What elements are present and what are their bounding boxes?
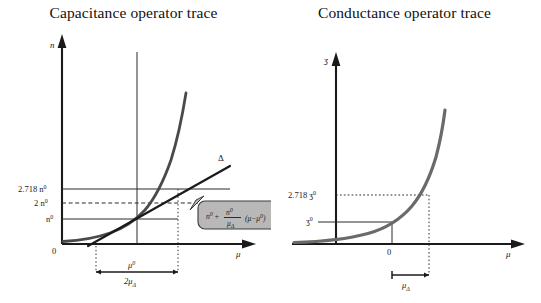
x-axis-label-conductance: μ — [505, 249, 511, 259]
span-label-mu0: μ0 — [127, 260, 135, 270]
ytick-label-2718z0: 2.718 ʒ0 — [288, 190, 316, 200]
ytick-label-2n0: 2 n0 — [34, 198, 48, 208]
svg-text:ʒ0: ʒ0 — [306, 216, 313, 226]
tangent-label-delta: Δ — [218, 153, 224, 163]
x-axis-label-capacitance: μ — [235, 249, 241, 259]
capacitance-plot: n μ Δ 2.718 — [0, 0, 271, 303]
svg-text:2 n0: 2 n0 — [34, 198, 48, 208]
y-axis-label-conductance: ʒ — [323, 55, 329, 65]
y-axis-label-capacitance: n — [50, 40, 55, 50]
svg-text:n0: n0 — [46, 214, 53, 224]
exponential-curve-conductance — [294, 110, 445, 243]
svg-text:2.718 n0: 2.718 n0 — [18, 184, 47, 194]
span-label-mudelta-conductance: μΔ — [401, 280, 410, 292]
ytick-label-2718n0: 2.718 n0 — [18, 184, 47, 194]
span-mu0 — [96, 269, 178, 274]
svg-text:2.718 ʒ0: 2.718 ʒ0 — [288, 190, 316, 200]
span-mudelta-conductance — [392, 271, 429, 279]
panel-capacitance: Capacitance operator trace n μ — [0, 0, 271, 303]
figure-root: Capacitance operator trace n μ — [0, 0, 541, 303]
svg-text:(μ−μ0): (μ−μ0) — [245, 213, 266, 223]
y-axis-capacitance — [58, 34, 67, 244]
span-label-2mudelta: 2μΔ — [124, 276, 137, 288]
ytick-label-n0: n0 — [46, 214, 53, 224]
y-axis-conductance — [332, 52, 341, 244]
origin-label-capacitance: 0 — [52, 246, 56, 256]
conductance-plot: ʒ μ 2.718 ʒ0 — [270, 0, 541, 303]
origin-label-conductance: 0 — [387, 247, 391, 257]
panel-conductance: Conductance operator trace ʒ μ — [270, 0, 541, 303]
ytick-label-z0: ʒ0 — [306, 216, 313, 226]
callout-formula-capacitance: n0+ n0 μΔ (μ−μ0) — [190, 196, 271, 229]
